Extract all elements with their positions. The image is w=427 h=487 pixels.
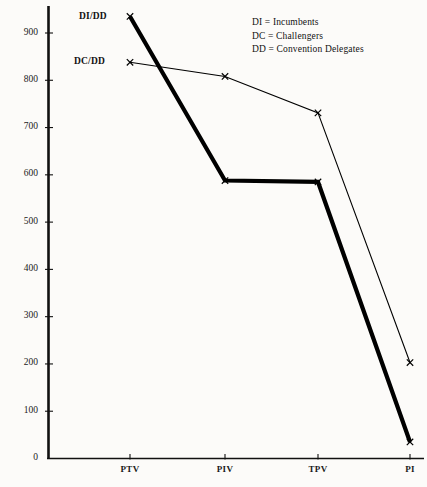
data-series-group	[130, 16, 410, 442]
axes	[47, 6, 424, 459]
data-markers-group	[127, 13, 413, 445]
data-point-marker-x	[407, 359, 413, 365]
y-axis-tick-label: 300	[8, 310, 38, 320]
y-axis-tick-label: 500	[8, 216, 38, 226]
series-line-di-dd	[130, 16, 410, 442]
y-axis-tick-label: 100	[8, 405, 38, 415]
series-label-di-dd: DI/DD	[79, 11, 107, 21]
x-axis-tick-label: TPV	[295, 464, 341, 474]
x-axis-tick-label: PIV	[202, 464, 248, 474]
y-axis-tick-label: 0	[8, 452, 38, 462]
series-label-dc-dd: DC/DD	[74, 56, 105, 66]
legend: DI = Incumbents DC = Challengers DD = Co…	[252, 16, 364, 57]
plot-area	[0, 0, 427, 487]
y-axis-tick-label: 900	[8, 27, 38, 37]
legend-item-dd: DD = Convention Delegates	[252, 43, 364, 57]
y-axis-tick-label: 700	[8, 121, 38, 131]
y-axis-tick-label: 200	[8, 357, 38, 367]
y-axis-tick-label: 600	[8, 168, 38, 178]
x-axis-tick-label: PTV	[107, 464, 153, 474]
y-axis-tick-label: 400	[8, 263, 38, 273]
x-axis-tick-label: PI	[387, 464, 427, 474]
data-point-marker-x	[315, 110, 321, 116]
chart-container: 0100200300400500600700800900 PTVPIVTPVPI…	[0, 0, 427, 487]
legend-item-di: DI = Incumbents	[252, 16, 364, 30]
y-axis-tick-label: 800	[8, 74, 38, 84]
legend-item-dc: DC = Challengers	[252, 30, 364, 44]
